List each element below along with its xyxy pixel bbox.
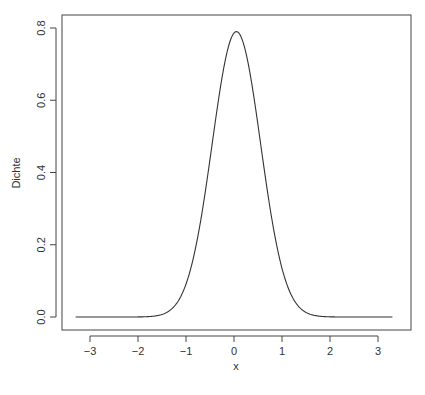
y-tick-label: 0.2 <box>35 237 47 252</box>
x-axis: −3−2−10123 <box>84 336 381 357</box>
x-tick-label: −1 <box>180 345 193 357</box>
x-tick-label: −3 <box>84 345 97 357</box>
plot-frame <box>62 15 411 330</box>
x-tick-label: 1 <box>279 345 285 357</box>
y-axis-label: Dichte <box>10 157 22 188</box>
x-tick-label: 3 <box>375 345 381 357</box>
x-axis-label: x <box>233 360 239 372</box>
y-tick-label: 0.0 <box>35 309 47 324</box>
x-tick-label: −2 <box>132 345 145 357</box>
y-tick-label: 0.6 <box>35 93 47 108</box>
y-axis: 0.00.20.40.60.8 <box>35 20 56 324</box>
y-tick-label: 0.8 <box>35 20 47 35</box>
x-tick-label: 0 <box>231 345 237 357</box>
density-chart: 0.00.20.40.60.8 −3−2−10123 x Dichte <box>0 0 425 395</box>
density-curve <box>76 32 393 317</box>
x-tick-label: 2 <box>327 345 333 357</box>
y-tick-label: 0.4 <box>35 165 47 180</box>
